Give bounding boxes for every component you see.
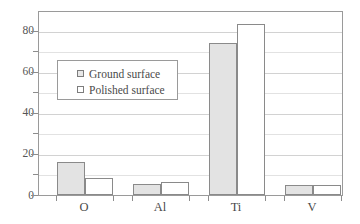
x-axis-label-O: O	[54, 200, 114, 215]
square-filled-gray-icon	[77, 70, 84, 77]
legend-item-label: Polished surface	[89, 84, 165, 96]
gridline-40	[39, 114, 342, 115]
y-axis-tick-major	[31, 154, 38, 155]
bar-polished-Ti	[237, 24, 265, 195]
y-axis-tick-label: 40	[0, 107, 34, 119]
y-axis-tick-major	[31, 31, 38, 32]
bar-ground-V	[285, 185, 313, 195]
y-axis-tick-label: 60	[0, 66, 34, 78]
gridline-20	[39, 155, 342, 156]
bar-polished-O	[85, 178, 113, 195]
bar-ground-Al	[133, 184, 161, 195]
x-axis-label-V: V	[282, 200, 342, 215]
bar-polished-Al	[161, 182, 189, 195]
gridline-80	[39, 32, 342, 33]
y-axis-tick-major	[31, 195, 38, 196]
y-axis-tick-label: 0	[0, 190, 34, 202]
bar-polished-V	[313, 185, 341, 195]
square-outline-white-icon	[77, 86, 84, 93]
gridline-70	[39, 52, 342, 53]
y-axis-tick-label: 80	[0, 25, 34, 37]
legend-item-ground-surface: Ground surface	[77, 66, 177, 81]
bar-ground-Ti	[209, 43, 237, 195]
y-axis-tick-major	[31, 72, 38, 73]
legend-item-polished-surface: Polished surface	[77, 82, 177, 97]
bar-ground-O	[57, 162, 85, 195]
legend: Ground surface Polished surface	[57, 60, 178, 100]
y-axis-tick-major	[31, 113, 38, 114]
plot-inner	[39, 12, 342, 195]
legend-item-label: Ground surface	[89, 68, 160, 80]
x-axis-label-Ti: Ti	[206, 200, 266, 215]
x-axis-label-Al: Al	[130, 200, 190, 215]
y-axis-tick-label: 20	[0, 148, 34, 160]
plot-area	[38, 11, 343, 196]
bar-chart: 80 60 40 20 0	[0, 0, 360, 224]
gridline-30	[39, 134, 342, 135]
